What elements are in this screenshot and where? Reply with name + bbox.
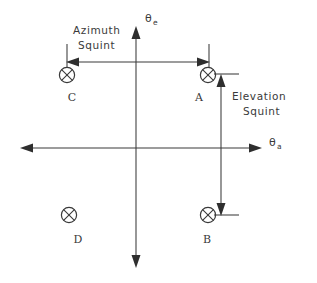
azimuth-squint-label-line1: Azimuth: [73, 24, 120, 36]
elevation-squint-label-line2: Squint: [243, 105, 280, 117]
beam-marker-b: [200, 207, 215, 222]
horizontal-axis-left-arrowhead: [20, 144, 33, 153]
vertical-axis-top-arrowhead: [132, 26, 141, 39]
elevation-squint-bottom-arrowhead: [217, 203, 226, 216]
azimuth-squint-label-line2: Squint: [78, 39, 115, 51]
beam-marker-c: [59, 67, 74, 82]
beam-squint-diagram: C A D B Azimuth Squint Elevation Squint …: [0, 0, 317, 283]
elevation-squint-top-arrowhead: [217, 74, 226, 87]
vertical-axis-label: θ e: [145, 12, 158, 27]
vertical-axis-label-base: θ: [145, 12, 152, 25]
horizontal-axis-label: θ a: [269, 136, 282, 151]
elevation-squint-label-line1: Elevation: [232, 90, 286, 102]
beam-label-b: B: [203, 233, 211, 246]
beam-label-a: A: [194, 91, 204, 104]
vertical-axis-label-subscript: e: [153, 18, 158, 27]
diagram-canvas: C A D B Azimuth Squint Elevation Squint …: [0, 0, 317, 283]
horizontal-axis: [20, 144, 262, 153]
horizontal-axis-label-subscript: a: [277, 142, 282, 151]
beam-label-c: C: [68, 91, 76, 104]
beam-label-d: D: [74, 233, 83, 246]
azimuth-squint-left-arrowhead: [66, 58, 79, 67]
horizontal-axis-label-base: θ: [269, 136, 276, 149]
beam-marker-d: [61, 207, 76, 222]
vertical-axis-bottom-arrowhead: [132, 255, 141, 268]
azimuth-squint-right-arrowhead: [197, 58, 210, 67]
beam-marker-a: [200, 67, 215, 82]
horizontal-axis-right-arrowhead: [249, 144, 262, 153]
